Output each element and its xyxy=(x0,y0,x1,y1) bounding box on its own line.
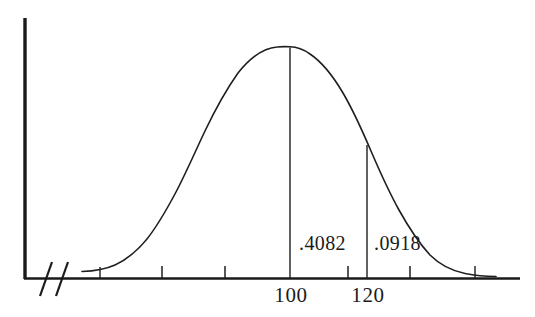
normal-curve-figure: .4082 .0918 100 120 xyxy=(0,0,535,317)
area-label-left: .4082 xyxy=(299,233,346,253)
x-axis-ticks xyxy=(162,266,410,278)
x-axis-label-mean: 100 xyxy=(265,285,317,306)
x-axis-label-x120: 120 xyxy=(342,285,394,306)
area-label-right: .0918 xyxy=(374,233,421,253)
normal-distribution-curve xyxy=(82,47,496,277)
bell-curve-drawing xyxy=(0,0,535,317)
